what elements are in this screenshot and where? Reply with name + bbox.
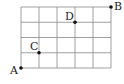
grid-diagram: ACDB — [0, 0, 124, 84]
point-a — [19, 66, 23, 70]
point-b — [109, 5, 113, 9]
point-label-b: B — [114, 0, 122, 13]
point-label-c: C — [30, 40, 38, 53]
point-label-a: A — [9, 64, 19, 77]
point-label-d: D — [65, 10, 74, 23]
